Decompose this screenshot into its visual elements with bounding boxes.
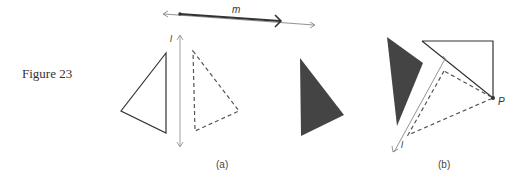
triangle-original-a xyxy=(121,53,166,133)
svg-text:P: P xyxy=(498,96,505,107)
svg-text:m: m xyxy=(232,4,240,15)
svg-text:l: l xyxy=(170,34,173,44)
panel-b-label: (b) xyxy=(438,159,450,170)
svg-text:l: l xyxy=(401,140,404,150)
triangle-original-b xyxy=(422,41,493,98)
line-m: m xyxy=(163,4,315,28)
figure-diagram: m l l P xyxy=(0,0,524,180)
triangle-filled-a xyxy=(300,58,344,136)
triangle-filled-b xyxy=(387,37,423,126)
mirror-line-l-a: l xyxy=(170,34,183,147)
point-p xyxy=(491,96,495,100)
triangle-reflected-a xyxy=(193,51,239,131)
panel-a-label: (a) xyxy=(216,159,228,170)
